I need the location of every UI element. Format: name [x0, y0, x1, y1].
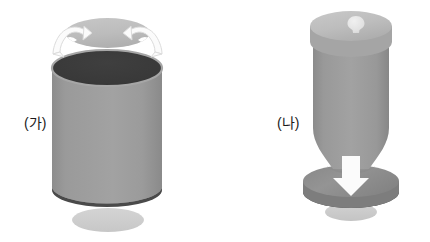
figure-ga-label: (가): [24, 112, 46, 132]
ga-lid: [62, 18, 153, 50]
figure-na: [215, 0, 430, 242]
figure-na-label: (나): [277, 112, 299, 132]
figure-na-drawing: [215, 0, 430, 242]
na-container-body: [313, 39, 389, 169]
ga-ground-shadow: [72, 208, 144, 232]
illustration-canvas: (가) (나): [0, 0, 430, 242]
ga-container-body: [52, 68, 162, 203]
